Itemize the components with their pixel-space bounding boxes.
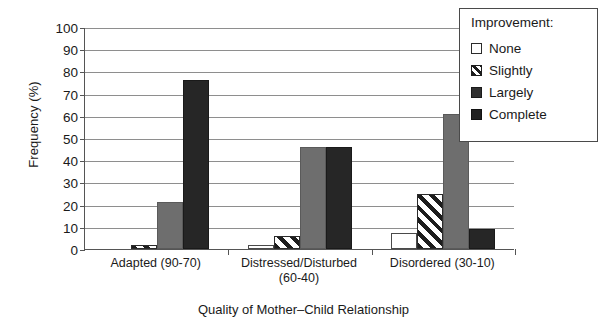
legend-swatch-complete-icon (471, 109, 482, 120)
legend-title: Improvement: (471, 15, 597, 30)
x-tick-mark (372, 249, 373, 255)
y-tick-label: 30 (63, 176, 78, 191)
bar-complete[interactable] (469, 229, 495, 249)
bar-group (85, 28, 228, 249)
legend-label: Complete (489, 107, 547, 122)
legend-item-slightly[interactable]: Slightly (471, 59, 597, 81)
bar-complete[interactable] (183, 80, 209, 249)
legend-label: None (489, 41, 521, 56)
bar-none[interactable] (391, 233, 417, 249)
y-tick-label: 60 (63, 109, 78, 124)
bar-complete[interactable] (326, 147, 352, 249)
y-tick-label: 70 (63, 87, 78, 102)
y-tick-label: 100 (55, 21, 78, 36)
y-tick-label: 50 (63, 132, 78, 147)
legend-swatch-none-icon (471, 43, 482, 54)
legend-item-none[interactable]: None (471, 37, 597, 59)
legend-items: NoneSlightlyLargelyComplete (471, 37, 597, 125)
plot-area: 1009080706050403020100 (84, 28, 514, 250)
bar-largely[interactable] (300, 147, 326, 249)
legend-swatch-largely-icon (471, 87, 482, 98)
legend: Improvement: NoneSlightlyLargelyComplete (459, 8, 598, 142)
y-tick-label: 40 (63, 154, 78, 169)
x-tick-label: Disordered (30-10) (355, 256, 530, 271)
legend-item-largely[interactable]: Largely (471, 81, 597, 103)
bar-chart-figure: Frequency (%) 1009080706050403020100 Ada… (0, 0, 607, 332)
bar-largely[interactable] (157, 202, 183, 249)
y-tick-label: 90 (63, 43, 78, 58)
y-tick-label: 10 (63, 220, 78, 235)
y-tick-mark (80, 250, 85, 251)
x-tick-mark (515, 249, 516, 255)
x-tick-mark (228, 249, 229, 255)
x-axis-title: Quality of Mother–Child Relationship (0, 302, 607, 317)
y-tick-label: 80 (63, 65, 78, 80)
legend-swatch-slightly-icon (471, 65, 482, 76)
y-tick-label: 20 (63, 198, 78, 213)
bar-slightly[interactable] (131, 245, 157, 249)
bar-groups (85, 28, 514, 249)
legend-item-complete[interactable]: Complete (471, 103, 597, 125)
y-axis-title: Frequency (%) (26, 45, 41, 205)
legend-label: Slightly (489, 63, 533, 78)
bar-slightly[interactable] (274, 236, 300, 249)
bar-slightly[interactable] (417, 194, 443, 250)
bar-none[interactable] (248, 245, 274, 249)
legend-label: Largely (489, 85, 533, 100)
bar-group (228, 28, 371, 249)
